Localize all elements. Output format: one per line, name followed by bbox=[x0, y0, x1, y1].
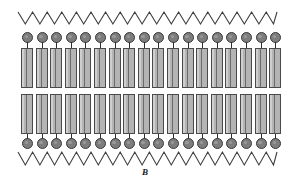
lipid-tail-box bbox=[211, 94, 223, 134]
lipid-molecule-lower bbox=[255, 0, 269, 185]
lipid-molecule-lower bbox=[65, 0, 79, 185]
lipid-molecules-layer bbox=[0, 0, 290, 185]
lipid-molecule-lower bbox=[94, 0, 108, 185]
lipid-head-group-icon bbox=[110, 138, 121, 149]
lipid-head-group-icon bbox=[212, 138, 223, 149]
lipid-head-group-icon bbox=[51, 138, 62, 149]
lipid-head-group-icon bbox=[183, 138, 194, 149]
lipid-head-group-icon bbox=[22, 138, 33, 149]
lipid-molecule-lower bbox=[211, 0, 225, 185]
lipid-tail-box bbox=[21, 94, 33, 134]
lipid-tail-box bbox=[196, 94, 208, 134]
lipid-molecule-lower bbox=[182, 0, 196, 185]
lipid-head-group-icon bbox=[95, 138, 106, 149]
lipid-tail-box bbox=[50, 94, 62, 134]
lipid-head-group-icon bbox=[241, 138, 252, 149]
lipid-molecule-lower bbox=[240, 0, 254, 185]
lipid-molecule-lower bbox=[50, 0, 64, 185]
lipid-molecule-lower bbox=[167, 0, 181, 185]
lipid-tail-box bbox=[240, 94, 252, 134]
lipid-head-group-icon bbox=[197, 138, 208, 149]
lipid-tail-box bbox=[123, 94, 135, 134]
lipid-head-group-icon bbox=[226, 138, 237, 149]
lipid-molecule-lower bbox=[269, 0, 283, 185]
lipid-molecule-lower bbox=[79, 0, 93, 185]
lipid-tail-box bbox=[152, 94, 164, 134]
lipid-molecule-lower bbox=[123, 0, 137, 185]
lipid-head-group-icon bbox=[124, 138, 135, 149]
lipid-head-group-icon bbox=[270, 138, 281, 149]
lipid-tail-box bbox=[255, 94, 267, 134]
lipid-molecule-lower bbox=[109, 0, 123, 185]
lipid-tail-box bbox=[79, 94, 91, 134]
lipid-tail-box bbox=[109, 94, 121, 134]
lipid-head-group-icon bbox=[66, 138, 77, 149]
lipid-head-group-icon bbox=[37, 138, 48, 149]
lipid-tail-box bbox=[225, 94, 237, 134]
lipid-molecule-lower bbox=[21, 0, 35, 185]
lipid-tail-box bbox=[138, 94, 150, 134]
lipid-tail-box bbox=[36, 94, 48, 134]
figure-caption-label: B bbox=[0, 167, 290, 177]
lipid-head-group-icon bbox=[153, 138, 164, 149]
lipid-tail-box bbox=[65, 94, 77, 134]
lipid-molecule-lower bbox=[138, 0, 152, 185]
lipid-head-group-icon bbox=[80, 138, 91, 149]
lipid-tail-box bbox=[182, 94, 194, 134]
lipid-head-group-icon bbox=[168, 138, 179, 149]
lipid-tail-box bbox=[269, 94, 281, 134]
lipid-tail-box bbox=[167, 94, 179, 134]
lipid-tail-box bbox=[94, 94, 106, 134]
lipid-head-group-icon bbox=[256, 138, 267, 149]
lipid-molecule-lower bbox=[36, 0, 50, 185]
lipid-molecule-lower bbox=[152, 0, 166, 185]
lipid-bilayer-figure: B bbox=[0, 0, 290, 185]
lipid-head-group-icon bbox=[139, 138, 150, 149]
lipid-molecule-lower bbox=[225, 0, 239, 185]
lipid-molecule-lower bbox=[196, 0, 210, 185]
